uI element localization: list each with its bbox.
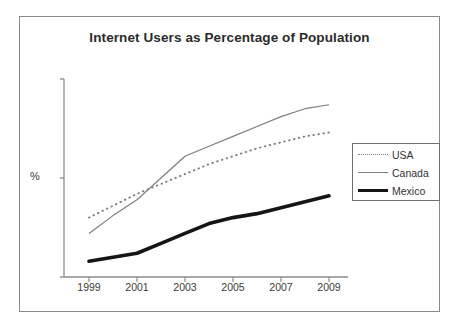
legend-item-mexico: Mexico [357,182,437,200]
chart-screenshot: Internet Users as Percentage of Populati… [0,0,460,335]
legend-label-mexico: Mexico [389,185,425,197]
thick-line-swatch-icon [357,185,389,197]
legend-label-canada: Canada [389,167,429,179]
x-tick-label-2001: 2001 [117,281,157,293]
x-tick-label-2009: 2009 [309,281,349,293]
thin-line-swatch-icon [357,167,389,179]
x-tick-label-2007: 2007 [261,281,301,293]
legend-label-usa: USA [389,149,414,161]
x-tick-label-2005: 2005 [213,281,253,293]
legend-item-usa: USA [357,146,437,164]
dotted-line-swatch-icon [357,149,389,161]
legend-item-canada: Canada [357,164,437,182]
legend: USA Canada Mexico [352,143,440,201]
series-line-mexico [89,196,329,261]
x-tick-label-1999: 1999 [69,281,109,293]
x-tick-label-2003: 2003 [165,281,205,293]
y-axis-label: % [30,170,40,182]
series-line-canada [89,105,329,234]
